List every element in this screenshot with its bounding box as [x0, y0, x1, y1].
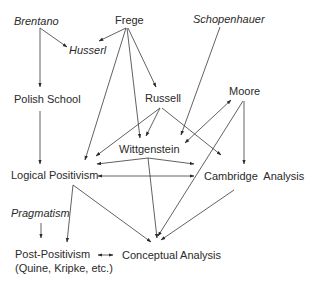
edge-wittgenstein-cambridge-analysis — [148, 158, 194, 164]
node-russell: Russell — [145, 92, 181, 105]
edge-schopenhauer-wittgenstein — [181, 27, 220, 135]
node-post-positivism: Post-Positivism — [15, 248, 90, 261]
edge-brentano-husserl — [40, 28, 67, 47]
node-conceptual-analysis: Conceptual Analysis — [122, 249, 221, 262]
node-schopenhauer: Schopenhauer — [193, 13, 265, 26]
node-brentano: Brentano — [14, 15, 59, 28]
node-moore: Moore — [229, 85, 260, 98]
philosophy-influence-diagram: Brentano Frege Schopenhauer Husserl Poli… — [0, 0, 309, 285]
node-frege: Frege — [115, 14, 144, 27]
node-logical-positivism: Logical Positivism — [11, 169, 98, 182]
edge-cambridge-analysis-conceptual-analysis — [161, 190, 234, 240]
edge-frege-husserl — [99, 28, 126, 41]
edge-moore-wittgenstein — [185, 100, 231, 143]
node-cambridge-analysis: Cambridge Analysis — [204, 170, 304, 183]
edge-wittgenstein-logical-positivism — [97, 158, 148, 164]
edge-frege-russell — [128, 28, 156, 87]
edge-moore-conceptual-analysis — [158, 101, 243, 236]
edge-logical-positivism-conceptual-analysis — [73, 185, 151, 242]
edge-frege-wittgenstein — [127, 28, 140, 138]
node-wittgenstein: Wittgenstein — [119, 143, 180, 156]
node-husserl: Husserl — [69, 44, 106, 57]
edge-russell-wittgenstein — [146, 108, 160, 136]
node-post-positivism-examples: (Quine, Kripke, etc.) — [15, 262, 113, 275]
node-polish-school: Polish School — [14, 93, 81, 106]
node-pragmatism: Pragmatism — [11, 207, 70, 220]
edge-wittgenstein-conceptual-analysis — [148, 158, 157, 238]
